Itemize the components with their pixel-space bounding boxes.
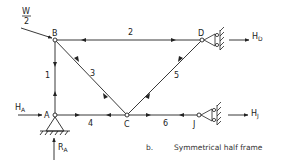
member-5 — [127, 40, 202, 115]
joint-C — [125, 113, 129, 117]
reaction-HJ-sub: J — [256, 112, 259, 120]
reaction-HD: HD — [229, 32, 263, 42]
member-label-6: 6 — [163, 119, 168, 128]
reaction-HD-sub: D — [258, 35, 263, 42]
load-arrow — [21, 28, 52, 38]
member-label-5: 5 — [174, 71, 179, 80]
node-label-A: A — [44, 111, 50, 120]
arrow-icon — [179, 113, 184, 117]
guide-support-J — [201, 102, 221, 125]
arrow-icon — [81, 38, 86, 42]
load-denominator: 2 — [24, 17, 29, 26]
member-label-3: 3 — [90, 69, 95, 78]
member-label-4: 4 — [88, 119, 93, 128]
figure-caption: Symmetrical half frame — [174, 143, 263, 152]
load-numerator: W — [22, 7, 30, 16]
svg-text:HJ: HJ — [251, 109, 259, 120]
reaction-RA-sub: A — [64, 146, 69, 153]
arrow-icon — [146, 113, 151, 117]
joints — [53, 38, 204, 117]
svg-text:HA: HA — [15, 103, 26, 113]
arrow-icon — [75, 113, 80, 117]
arrow-icon — [171, 38, 176, 42]
svg-text:RA: RA — [58, 143, 69, 153]
reaction-HA: HA — [15, 103, 42, 115]
load-w-half: W 2 — [21, 7, 52, 38]
reaction-HA-sub: A — [21, 106, 26, 113]
arrow-icon — [53, 62, 57, 67]
reaction-HJ: HJ — [228, 109, 259, 120]
node-label-D: D — [198, 29, 204, 38]
reaction-RA: RA — [54, 138, 69, 160]
truss-diagram: B D A C J 1 2 3 4 5 6 W 2 HA RA — [0, 0, 283, 164]
guide-support-D — [204, 27, 224, 50]
arrow-icon — [53, 91, 57, 96]
panel-label: b. — [146, 143, 153, 152]
svg-text:HD: HD — [252, 32, 263, 42]
member-label-2: 2 — [128, 28, 133, 37]
node-label-B: B — [52, 29, 58, 38]
node-label-C: C — [124, 120, 130, 129]
joint-B — [53, 38, 57, 42]
truss-members — [55, 40, 202, 115]
arrow-icon — [106, 113, 111, 117]
member-label-1: 1 — [45, 71, 50, 80]
node-label-J: J — [192, 120, 195, 129]
